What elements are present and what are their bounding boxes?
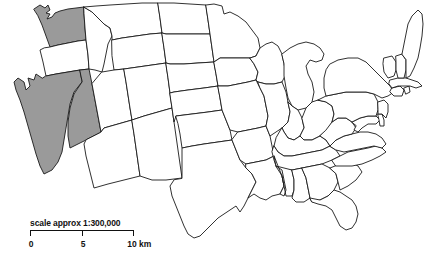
state-rhode-island[interactable] bbox=[404, 86, 410, 94]
scale-bar-graphic bbox=[30, 230, 134, 238]
state-north-dakota[interactable] bbox=[158, 3, 210, 34]
scale-label-10-km: 10 km bbox=[127, 239, 151, 249]
state-delaware[interactable] bbox=[378, 114, 384, 126]
map-container: scale approx 1:300,000 0 5 10 km bbox=[0, 0, 426, 257]
scale-label-0: 0 bbox=[29, 239, 34, 249]
scale-label-5: 5 bbox=[81, 239, 86, 249]
scale-tick-0 bbox=[30, 230, 31, 236]
state-vermont[interactable] bbox=[383, 56, 396, 78]
state-minnesota[interactable] bbox=[206, 4, 260, 62]
scale-tick-10 bbox=[133, 230, 134, 236]
scale-caption: scale approx 1:300,000 bbox=[30, 218, 150, 228]
scale-bar-labels: 0 5 10 km bbox=[30, 239, 150, 251]
state-massachusetts[interactable] bbox=[389, 78, 422, 88]
scale-tick-5 bbox=[82, 230, 83, 236]
scale-bar: scale approx 1:300,000 0 5 10 km bbox=[30, 218, 150, 252]
state-south-dakota[interactable] bbox=[162, 33, 214, 64]
